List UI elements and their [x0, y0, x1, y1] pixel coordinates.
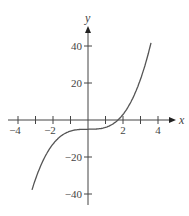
x-tick-label: −4 [9, 124, 21, 136]
x-axis-arrow-icon [169, 117, 176, 123]
y-tick-label: −40 [65, 188, 83, 200]
x-axis-label: x [178, 113, 185, 127]
y-axis-arrow-icon [85, 26, 91, 33]
y-tick-label: 20 [71, 77, 83, 89]
x-tick-label: −2 [44, 124, 56, 136]
x-tick-label: 4 [155, 124, 161, 136]
function-curve [32, 43, 151, 190]
y-tick-label: −20 [65, 151, 83, 163]
x-tick-label: 2 [120, 124, 126, 136]
y-axis-label: y [84, 11, 91, 25]
cubic-function-graph: −4−2244020−20−40 x y [0, 0, 189, 216]
y-tick-label: 40 [71, 40, 83, 52]
axes [8, 26, 176, 205]
